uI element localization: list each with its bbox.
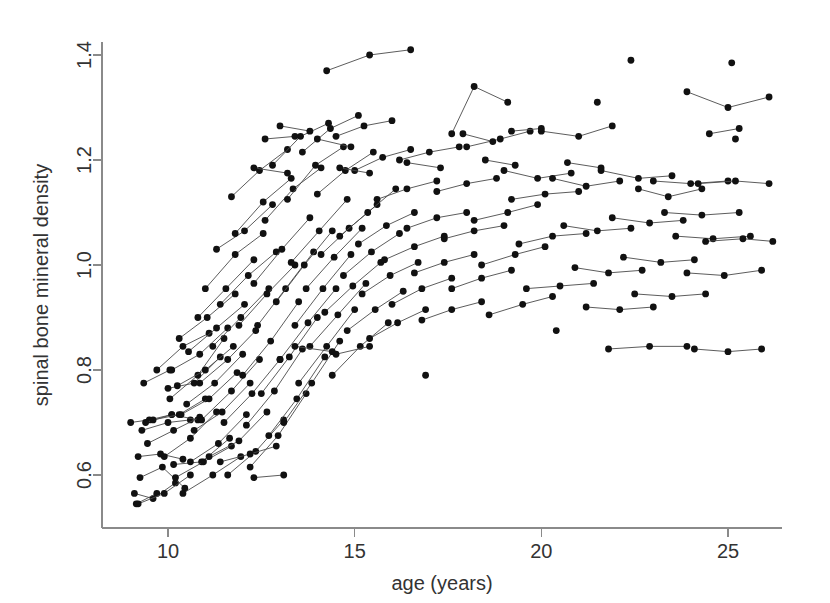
data-point [200, 458, 207, 465]
series-s124 [482, 157, 519, 169]
data-point [277, 122, 284, 129]
data-point [187, 458, 194, 465]
data-point [327, 125, 334, 132]
series-s127 [217, 443, 280, 466]
data-point [583, 304, 590, 311]
data-point [463, 180, 470, 187]
data-point [138, 427, 145, 434]
data-point [646, 343, 653, 350]
data-point [359, 225, 366, 232]
data-point [305, 319, 312, 326]
series-s80 [441, 222, 508, 242]
data-point [290, 185, 297, 192]
data-point [463, 209, 470, 216]
data-point [131, 490, 138, 497]
series-s116 [262, 133, 299, 142]
data-point [534, 175, 541, 182]
data-point [222, 285, 229, 292]
data-point [301, 262, 308, 269]
data-point [519, 301, 526, 308]
data-point [237, 314, 244, 321]
series-s86 [501, 167, 575, 182]
data-point [258, 390, 265, 397]
series-s98 [631, 290, 709, 299]
data-point [219, 409, 226, 416]
data-point [575, 188, 582, 195]
data-point [396, 157, 403, 164]
data-point [273, 443, 280, 450]
data-point [172, 474, 179, 481]
data-point [669, 172, 676, 179]
data-point [542, 191, 549, 198]
series-s56 [303, 225, 366, 292]
data-point [239, 372, 246, 379]
data-point [202, 285, 209, 292]
data-point [183, 401, 190, 408]
data-point [441, 259, 448, 266]
data-point [698, 212, 705, 219]
series-s96 [609, 214, 687, 226]
data-point [142, 419, 149, 426]
data-point [448, 275, 455, 282]
data-point [221, 335, 228, 342]
data-point [448, 306, 455, 313]
series-s41 [247, 390, 310, 470]
data-point [361, 122, 368, 129]
series-s32 [213, 201, 276, 252]
data-point [575, 133, 582, 140]
data-point [336, 164, 343, 171]
series-s107 [684, 88, 773, 111]
data-point [250, 164, 257, 171]
data-point [527, 128, 534, 135]
data-point [766, 180, 773, 187]
series-s33 [217, 248, 280, 307]
data-point [284, 196, 291, 203]
series-polyline [511, 129, 541, 132]
data-point [374, 196, 381, 203]
data-point [680, 217, 687, 224]
data-point [236, 322, 243, 329]
data-point [344, 196, 351, 203]
data-point [344, 327, 351, 334]
series-s123 [404, 159, 444, 171]
series-s89 [523, 280, 597, 292]
data-point [230, 343, 237, 350]
data-point [504, 99, 511, 106]
data-point [135, 500, 142, 507]
data-point [404, 159, 411, 166]
data-point [404, 185, 411, 192]
y-tick-label: 1.0 [73, 251, 95, 279]
data-point [590, 280, 597, 287]
data-point [228, 388, 235, 395]
data-point [605, 346, 612, 353]
data-point [278, 246, 285, 253]
data-point [583, 230, 590, 237]
data-point [605, 269, 612, 276]
data-point [286, 353, 293, 360]
data-point [635, 175, 642, 182]
data-point [616, 178, 623, 185]
data-point [245, 272, 252, 279]
data-point [166, 395, 173, 402]
series-polyline [280, 126, 310, 131]
data-point [137, 474, 144, 481]
data-point [639, 267, 646, 274]
data-point [249, 390, 256, 397]
data-point [364, 209, 371, 216]
x-tick-label: 25 [717, 540, 739, 562]
data-point [426, 149, 433, 156]
data-point [471, 83, 478, 90]
y-tick-label: 1.2 [73, 146, 95, 174]
data-point [314, 314, 321, 321]
data-point [728, 59, 735, 66]
series-s122 [336, 164, 373, 176]
series-s92 [560, 222, 634, 234]
data-point [308, 380, 315, 387]
series-polyline [265, 136, 295, 139]
series-polyline [336, 346, 370, 354]
data-point [323, 67, 330, 74]
data-point [400, 288, 407, 295]
data-point [323, 343, 330, 350]
data-point [265, 432, 272, 439]
series-polyline [317, 139, 351, 147]
